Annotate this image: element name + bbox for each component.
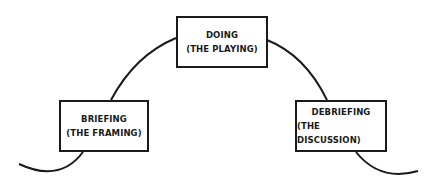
stage-subtitle: (THE PLAYING) bbox=[186, 42, 258, 56]
curve-tail-left bbox=[19, 152, 83, 171]
stage-subtitle: (THE DISCUSSION) bbox=[297, 119, 385, 147]
stage-title: DEBRIEFING bbox=[312, 105, 371, 119]
stage-title: DOING bbox=[206, 28, 238, 42]
curve-tail-right bbox=[356, 152, 418, 174]
stage-box-doing: DOING (THE PLAYING) bbox=[176, 16, 268, 68]
stage-box-briefing: BRIEFING (THE FRAMING) bbox=[59, 100, 149, 152]
curve-doing-to-debriefing bbox=[267, 40, 327, 100]
stage-title: BRIEFING bbox=[81, 112, 127, 126]
curve-briefing-to-doing bbox=[111, 38, 176, 100]
stage-box-debriefing: DEBRIEFING (THE DISCUSSION) bbox=[295, 100, 387, 152]
stage-subtitle: (THE FRAMING) bbox=[66, 126, 141, 140]
